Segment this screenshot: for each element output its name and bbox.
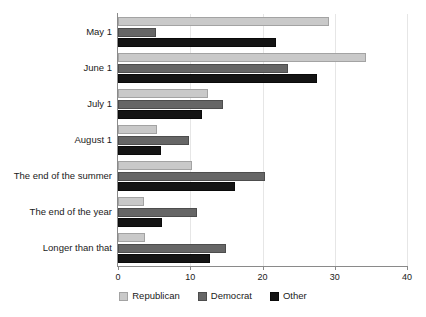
- legend-swatch-icon: [119, 292, 128, 301]
- bar-republican-7: [118, 233, 145, 242]
- category-label: June 1: [0, 62, 112, 74]
- legend-label: Other: [283, 290, 307, 302]
- x-tick-mark: [263, 266, 264, 270]
- bar-group: [118, 233, 407, 263]
- x-tick-label: 40: [392, 271, 422, 283]
- bar-chart: 010203040 May 1June 1July 1August 1The e…: [0, 0, 426, 317]
- bar-group: [118, 197, 407, 227]
- x-tick-label: 20: [248, 271, 278, 283]
- bar-republican-1: [118, 17, 329, 26]
- bar-democrat-1: [118, 28, 156, 37]
- legend-item-other[interactable]: Other: [270, 290, 307, 302]
- category-label: May 1: [0, 26, 112, 38]
- bar-democrat-3: [118, 100, 223, 109]
- x-tick-mark: [118, 266, 119, 270]
- legend-item-democrat[interactable]: Democrat: [198, 290, 252, 302]
- bar-republican-4: [118, 125, 157, 134]
- bar-republican-5: [118, 161, 192, 170]
- bar-republican-2: [118, 53, 366, 62]
- bar-other-4: [118, 146, 161, 155]
- bar-group: [118, 53, 407, 83]
- legend-swatch-icon: [270, 292, 279, 301]
- bar-group: [118, 161, 407, 191]
- plot-area: [118, 14, 407, 266]
- legend-swatch-icon: [198, 292, 207, 301]
- category-label: July 1: [0, 98, 112, 110]
- bar-group: [118, 17, 407, 47]
- x-tick-mark: [190, 266, 191, 270]
- category-label: August 1: [0, 134, 112, 146]
- category-label: The end of the summer: [0, 170, 112, 182]
- x-tick-label: 0: [103, 271, 133, 283]
- bar-other-1: [118, 38, 276, 47]
- bar-other-3: [118, 110, 202, 119]
- x-tick-mark: [407, 266, 408, 270]
- bar-other-7: [118, 254, 210, 263]
- bar-republican-3: [118, 89, 208, 98]
- gridline: [407, 14, 408, 266]
- legend-item-republican[interactable]: Republican: [119, 290, 180, 302]
- bar-other-6: [118, 218, 162, 227]
- x-tick-mark: [335, 266, 336, 270]
- x-tick-label: 10: [175, 271, 205, 283]
- category-label: The end of the year: [0, 206, 112, 218]
- chart-legend: RepublicanDemocratOther: [0, 290, 426, 302]
- bar-republican-6: [118, 197, 144, 206]
- category-label: Longer than that: [0, 242, 112, 254]
- bar-democrat-4: [118, 136, 189, 145]
- bar-democrat-2: [118, 64, 288, 73]
- legend-label: Democrat: [211, 290, 252, 302]
- x-tick-label: 30: [320, 271, 350, 283]
- bar-democrat-6: [118, 208, 197, 217]
- bar-other-2: [118, 74, 317, 83]
- bar-democrat-5: [118, 172, 265, 181]
- bar-group: [118, 125, 407, 155]
- legend-label: Republican: [132, 290, 180, 302]
- bar-group: [118, 89, 407, 119]
- bar-other-5: [118, 182, 235, 191]
- bar-democrat-7: [118, 244, 226, 253]
